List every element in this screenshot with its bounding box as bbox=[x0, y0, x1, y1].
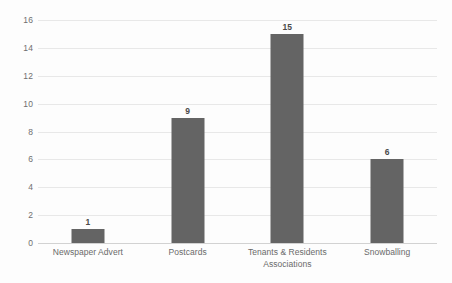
bar[interactable] bbox=[371, 159, 404, 243]
y-tick-label: 10 bbox=[5, 99, 33, 109]
x-tick-label: Postcards bbox=[138, 247, 238, 259]
y-tick-label: 2 bbox=[5, 210, 33, 220]
y-tick-label: 6 bbox=[5, 154, 33, 164]
y-tick-label: 8 bbox=[5, 127, 33, 137]
bar-slot: 15 bbox=[238, 20, 338, 243]
bar-value-label: 9 bbox=[185, 106, 190, 116]
bar-value-label: 1 bbox=[85, 217, 90, 227]
bar-slot: 1 bbox=[38, 20, 138, 243]
y-axis: 0246810121416 bbox=[0, 20, 33, 243]
bar-value-label: 15 bbox=[283, 22, 293, 32]
y-tick-label: 16 bbox=[5, 15, 33, 25]
x-tick-label: Snowballing bbox=[337, 247, 437, 259]
axis-baseline bbox=[38, 243, 437, 244]
bars-layer: 19156 bbox=[38, 20, 437, 243]
y-tick-label: 0 bbox=[5, 238, 33, 248]
bar-slot: 6 bbox=[337, 20, 437, 243]
bar[interactable] bbox=[171, 118, 204, 243]
y-tick-label: 12 bbox=[5, 71, 33, 81]
bar[interactable] bbox=[71, 229, 104, 243]
y-tick-label: 4 bbox=[5, 182, 33, 192]
bar-slot: 9 bbox=[138, 20, 238, 243]
x-tick-label: Tenants & Residents Associations bbox=[238, 247, 338, 270]
bar-chart: 0246810121416 19156 Newspaper AdvertPost… bbox=[0, 0, 452, 283]
x-tick-label: Newspaper Advert bbox=[38, 247, 138, 259]
bar[interactable] bbox=[271, 34, 304, 243]
x-axis: Newspaper AdvertPostcardsTenants & Resid… bbox=[38, 247, 437, 281]
bar-value-label: 6 bbox=[385, 147, 390, 157]
y-tick-label: 14 bbox=[5, 43, 33, 53]
